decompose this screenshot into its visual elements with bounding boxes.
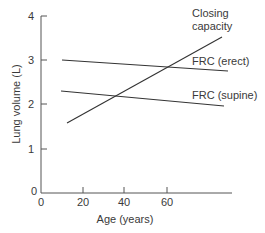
svg-text:4: 4 — [28, 10, 34, 22]
svg-text:0: 0 — [38, 196, 44, 208]
y-axis-label: Lung volume (L) — [10, 64, 22, 144]
svg-text:20: 20 — [77, 196, 89, 208]
frc-erect-label: FRC (erect) — [192, 55, 249, 67]
x-tick-labels: 0 20 40 60 — [38, 196, 173, 208]
svg-text:40: 40 — [118, 196, 130, 208]
svg-text:3: 3 — [28, 54, 34, 66]
y-ticks — [41, 16, 47, 149]
x-ticks — [83, 187, 167, 193]
closing-capacity-label-2: capacity — [192, 20, 233, 32]
closing-capacity-line — [67, 37, 222, 123]
svg-text:1: 1 — [28, 143, 34, 155]
y-tick-labels: 4 3 2 1 0 — [28, 10, 37, 197]
svg-text:2: 2 — [28, 98, 34, 110]
x-axis-label: Age (years) — [97, 213, 154, 225]
chart: 4 3 2 1 0 0 20 40 60 Age (years) Lung vo… — [0, 0, 265, 233]
svg-text:0: 0 — [31, 185, 37, 197]
svg-text:60: 60 — [161, 196, 173, 208]
closing-capacity-label-1: Closing — [192, 7, 229, 19]
frc-supine-label: FRC (supine) — [192, 89, 257, 101]
